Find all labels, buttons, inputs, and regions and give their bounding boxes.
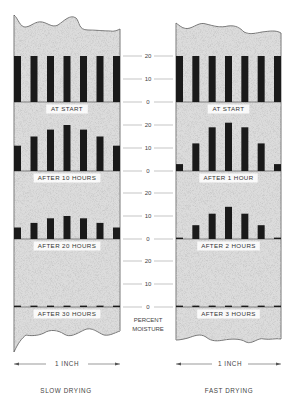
moisture-bar xyxy=(274,306,281,307)
moisture-bar xyxy=(225,207,232,239)
axis-tick-label: 10 xyxy=(145,145,152,151)
moisture-bar xyxy=(176,306,183,307)
moisture-bar xyxy=(192,143,199,171)
moisture-bar xyxy=(31,223,38,239)
moisture-bar xyxy=(225,56,232,102)
moisture-diagram: AT STARTAFTER 10 HOURSAFTER 20 HOURSAFTE… xyxy=(0,0,290,400)
moisture-bar xyxy=(31,56,38,102)
axis-tick-label: 10 xyxy=(145,281,152,287)
moisture-bar xyxy=(176,56,183,102)
moisture-bar xyxy=(47,306,54,307)
moisture-bar xyxy=(80,218,87,239)
axis-tick-label: 10 xyxy=(145,213,152,219)
moisture-bar xyxy=(209,127,216,171)
moisture-bar xyxy=(209,214,216,239)
moisture-bar xyxy=(192,225,199,239)
moisture-bar xyxy=(258,143,265,171)
moisture-bar xyxy=(113,228,120,240)
moisture-bar xyxy=(241,306,248,307)
scale-bar-left: 1 INCH xyxy=(14,360,120,367)
moisture-bar xyxy=(64,125,71,171)
fast-drying-specimen: AT STARTAFTER 1 HOURAFTER 2 HOURSAFTER 3… xyxy=(176,23,281,343)
moisture-bar xyxy=(258,225,265,239)
moisture-bar xyxy=(225,123,232,171)
moisture-bar xyxy=(192,56,199,102)
moisture-bar xyxy=(80,56,87,102)
moisture-bar xyxy=(64,306,71,307)
panel-label: AT START xyxy=(213,105,245,112)
panel-label: AFTER 20 HOURS xyxy=(38,242,97,249)
axis-title-line1: PERCENT xyxy=(134,317,163,323)
axis-tick-label: 20 xyxy=(145,53,152,59)
moisture-bar xyxy=(14,306,21,307)
moisture-bar xyxy=(258,306,265,307)
panel-label: AFTER 3 HOURS xyxy=(201,310,256,317)
moisture-bar xyxy=(31,137,38,172)
moisture-bar xyxy=(113,56,120,102)
moisture-bar xyxy=(258,56,265,102)
percent-moisture-axes: 20100201002010020100 xyxy=(123,53,173,310)
scale-label-right: 1 INCH xyxy=(218,360,242,367)
moisture-bar xyxy=(97,137,104,172)
moisture-bar xyxy=(176,164,183,171)
moisture-bar xyxy=(274,56,281,102)
moisture-bar xyxy=(113,146,120,171)
caption-fast-drying: FAST DRYING xyxy=(205,387,253,394)
moisture-bar xyxy=(176,238,183,239)
moisture-bar xyxy=(14,146,21,171)
moisture-bar xyxy=(241,214,248,239)
scale-bar-right: 1 INCH xyxy=(176,360,281,367)
moisture-bar xyxy=(97,306,104,307)
axis-tick-label: 20 xyxy=(145,258,152,264)
panel-label: AFTER 30 HOURS xyxy=(38,310,97,317)
moisture-bar xyxy=(225,306,232,307)
moisture-bar xyxy=(64,216,71,239)
moisture-bar xyxy=(97,56,104,102)
axis-tick-label: 0 xyxy=(146,236,150,242)
moisture-bar xyxy=(274,238,281,239)
moisture-bar xyxy=(192,306,199,307)
moisture-bar xyxy=(274,164,281,171)
axis-tick-label: 20 xyxy=(145,122,152,128)
axis-tick-label: 10 xyxy=(145,76,152,82)
panel-label: AFTER 2 HOURS xyxy=(201,242,256,249)
axis-tick-label: 20 xyxy=(145,190,152,196)
slow-drying-specimen: AT STARTAFTER 10 HOURSAFTER 20 HOURSAFTE… xyxy=(14,15,120,352)
axis-tick-label: 0 xyxy=(146,304,150,310)
moisture-bar xyxy=(14,228,21,240)
moisture-bar xyxy=(47,130,54,171)
axis-tick-label: 0 xyxy=(146,99,150,105)
panel-label: AFTER 1 HOUR xyxy=(203,174,253,181)
moisture-bar xyxy=(113,306,120,307)
scale-label-left: 1 INCH xyxy=(55,360,79,367)
moisture-bar xyxy=(80,130,87,171)
moisture-bar xyxy=(14,56,21,102)
moisture-bar xyxy=(241,127,248,171)
moisture-bar xyxy=(64,56,71,102)
moisture-bar xyxy=(47,218,54,239)
panel-label: AT START xyxy=(51,105,83,112)
moisture-bar xyxy=(31,306,38,307)
moisture-bar xyxy=(97,223,104,239)
moisture-bar xyxy=(209,306,216,307)
panel-label: AFTER 10 HOURS xyxy=(38,174,97,181)
caption-slow-drying: SLOW DRYING xyxy=(40,387,91,394)
moisture-bar xyxy=(80,306,87,307)
axis-title-line2: MOISTURE xyxy=(132,326,164,332)
moisture-bar xyxy=(47,56,54,102)
axis-tick-label: 0 xyxy=(146,168,150,174)
moisture-bar xyxy=(209,56,216,102)
moisture-bar xyxy=(241,56,248,102)
